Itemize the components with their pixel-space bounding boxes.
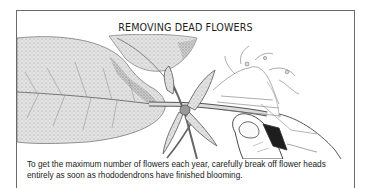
rhododendron-deadheading-illustration	[17, 34, 355, 159]
leaf-buds-icon	[163, 66, 217, 154]
hand-thumb-icon	[233, 114, 341, 159]
figure-box: REMOVING DEAD FLOWERS	[16, 10, 355, 188]
figure-title: REMOVING DEAD FLOWERS	[17, 22, 354, 33]
spent-flower-head-icon	[213, 46, 317, 134]
figure-caption: To get the maximum number of flowers eac…	[27, 159, 353, 180]
